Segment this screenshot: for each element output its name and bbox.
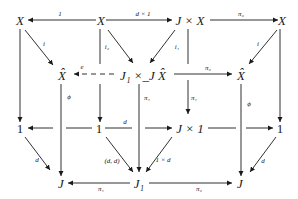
label-phi-left: ϕ [67, 94, 71, 101]
label-i-left: i [43, 41, 45, 48]
node-x-top-left: X [16, 14, 24, 27]
node-j1: J₁ [134, 177, 144, 190]
label-d-d: (d, d) [104, 158, 119, 165]
label-d-times-1: d × 1 [135, 11, 150, 18]
label-pi2-mid: π₂ [205, 65, 211, 72]
node-xhat-left: X̂ [58, 69, 66, 82]
label-d-left: d [35, 157, 39, 164]
label-pi1-bottom: π₁ [98, 186, 104, 193]
label-pi1-mid: π₁ [144, 95, 150, 102]
label-pi2-bottom: π₂ [196, 186, 202, 193]
label-phi-right: ϕ [247, 101, 251, 108]
node-one-middle: 1 [96, 122, 103, 135]
node-x-top-middle: X [97, 14, 105, 27]
label-i2: i₂ [105, 44, 109, 51]
node-xhat-right: X̂ [237, 69, 245, 82]
node-j-right: J [237, 177, 243, 190]
node-j-times-one: J × 1 [176, 122, 204, 135]
node-j-left: J [58, 177, 64, 190]
label-e: e [80, 64, 83, 71]
label-d-right: d [261, 158, 265, 165]
node-one-left: 1 [17, 122, 24, 135]
label-one: 1 [58, 11, 62, 18]
label-d-mid: d [123, 119, 127, 126]
label-one-times-d: 1 × d [155, 157, 170, 164]
label-pi1-right: π₁ [191, 95, 197, 102]
node-j-times-x: J × X [176, 14, 205, 27]
label-i-right: i [257, 41, 259, 48]
node-one-right: 1 [277, 122, 284, 135]
node-pullback: J₁ ×_J X̂ [120, 69, 166, 82]
label-i1: i₁ [175, 44, 179, 51]
label-pi2-top: π₂ [238, 11, 244, 18]
node-x-top-right: X [278, 14, 286, 27]
commutative-diagram: X X J × X X X̂ J₁ ×_J X̂ X̂ 1 1 J × 1 1 … [0, 0, 298, 199]
